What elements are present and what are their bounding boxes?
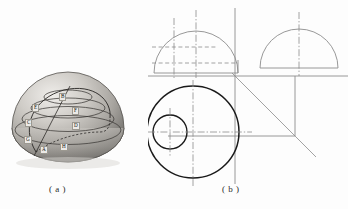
point-label-A: A <box>40 146 48 154</box>
projection-drawing <box>148 0 348 209</box>
point-label-C: C <box>25 119 32 127</box>
figure-container: A B C D E F G H <box>0 0 348 209</box>
top-view <box>148 80 252 186</box>
point-label-B: B <box>59 93 66 101</box>
point-label-D: D <box>72 122 80 130</box>
caption-b: ( b ) <box>222 184 240 194</box>
ground-shadow <box>16 157 120 169</box>
point-label-E: E <box>32 104 39 112</box>
caption-a: ( a ) <box>49 184 66 194</box>
point-label-G: G <box>24 136 32 144</box>
hemisphere-body <box>12 72 124 162</box>
panel-b-projection <box>148 0 348 209</box>
point-label-H: H <box>60 143 68 151</box>
mitre-line-45deg <box>232 73 316 157</box>
panel-a-pictorial: A B C D E F G H <box>0 0 170 209</box>
hemisphere-drawing <box>0 0 170 209</box>
front-view <box>152 10 238 78</box>
point-label-F: F <box>72 107 79 115</box>
side-view <box>260 12 338 76</box>
